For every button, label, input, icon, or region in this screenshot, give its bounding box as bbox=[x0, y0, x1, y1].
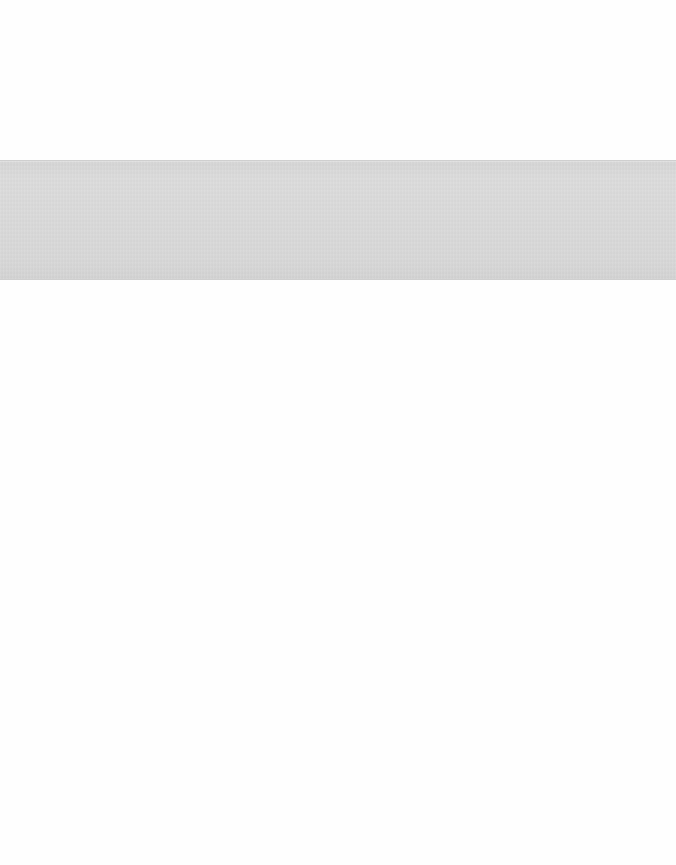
gray-texture-banner bbox=[0, 160, 676, 280]
blank-page bbox=[0, 0, 676, 865]
